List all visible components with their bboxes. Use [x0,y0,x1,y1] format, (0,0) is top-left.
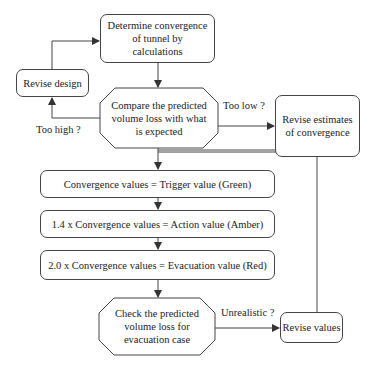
check-decision-text: Check the predicted volume loss for evac… [110,307,204,346]
revise-design-box: Revise design [16,69,89,97]
compare-decision-text: Compare the predicted volume loss with w… [108,99,210,138]
revise-estimates-text: Revise estimates of convergence [280,113,355,139]
action-value-text: 1.4 x Convergence values = Action value … [52,218,264,231]
trigger-value-text: Convergence values = Trigger value (Gree… [64,178,251,191]
unrealistic-label: Unrealistic ? [221,307,274,318]
too-high-label: Too high ? [36,124,81,135]
determine-convergence-box: Determine convergence of tunnel by calcu… [100,14,215,63]
check-decision: Check the predicted volume loss for evac… [104,298,210,355]
revise-values-box: Revise values [280,312,343,343]
action-value-box: 1.4 x Convergence values = Action value … [40,210,275,238]
trigger-value-box: Convergence values = Trigger value (Gree… [40,170,275,198]
too-low-label: Too low ? [223,100,265,111]
compare-decision: Compare the predicted volume loss with w… [104,88,214,148]
revise-design-text: Revise design [23,77,82,90]
evacuation-value-text: 2.0 x Convergence values = Evacuation va… [48,259,267,272]
determine-convergence-text: Determine convergence of tunnel by calcu… [107,19,208,58]
revise-values-text: Revise values [282,321,340,334]
revise-estimates-box: Revise estimates of convergence [275,95,360,157]
evacuation-value-box: 2.0 x Convergence values = Evacuation va… [40,250,275,280]
